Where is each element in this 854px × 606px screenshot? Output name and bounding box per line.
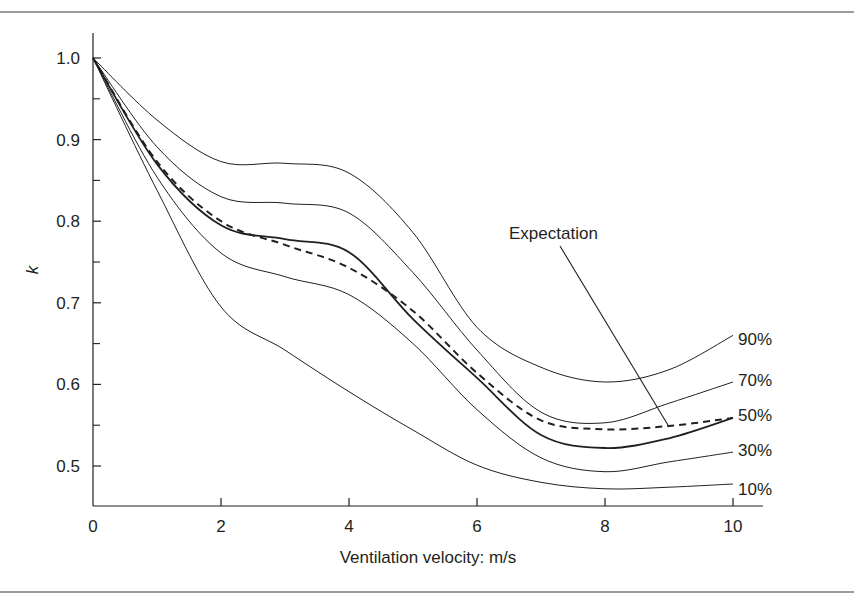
y-tick-label: 0.5 [56, 457, 80, 476]
x-ticks: 0246810 [88, 498, 742, 536]
x-tick-label: 4 [344, 517, 353, 536]
x-tick-label: 10 [724, 517, 743, 536]
annotation-leader-line [560, 246, 669, 427]
x-tick-label: 8 [600, 517, 609, 536]
x-tick-label: 2 [216, 517, 225, 536]
series-label: 50% [738, 406, 772, 425]
annotation-label: Expectation [509, 224, 598, 243]
chart-canvas: 0.50.60.70.80.91.0 0246810 Ventilation v… [0, 0, 854, 606]
y-tick-label: 1.0 [56, 49, 80, 68]
annotation: Expectation [509, 224, 669, 427]
x-tick-label: 6 [472, 517, 481, 536]
axes: 0.50.60.70.80.91.0 0246810 Ventilation v… [23, 33, 763, 567]
series-line-90pct [93, 58, 733, 382]
y-ticks: 0.50.60.70.80.91.0 [56, 49, 101, 476]
series-line-10pct [93, 58, 733, 489]
series-label: 10% [738, 480, 772, 499]
series-label: 90% [738, 330, 772, 349]
y-tick-label: 0.8 [56, 212, 80, 231]
series-layer [93, 58, 733, 489]
series-line-70pct [93, 58, 733, 423]
series-line-30pct [93, 58, 733, 472]
x-tick-label: 0 [88, 517, 97, 536]
chart: 0.50.60.70.80.91.0 0246810 Ventilation v… [0, 0, 854, 606]
series-label: 70% [738, 371, 772, 390]
y-tick-label: 0.7 [56, 294, 80, 313]
series-labels: 90%70%50%30%10% [738, 330, 772, 499]
y-tick-label: 0.9 [56, 131, 80, 150]
y-axis-title: k [23, 264, 42, 274]
x-axis-title: Ventilation velocity: m/s [340, 548, 517, 567]
y-tick-label: 0.6 [56, 375, 80, 394]
series-label: 30% [738, 441, 772, 460]
